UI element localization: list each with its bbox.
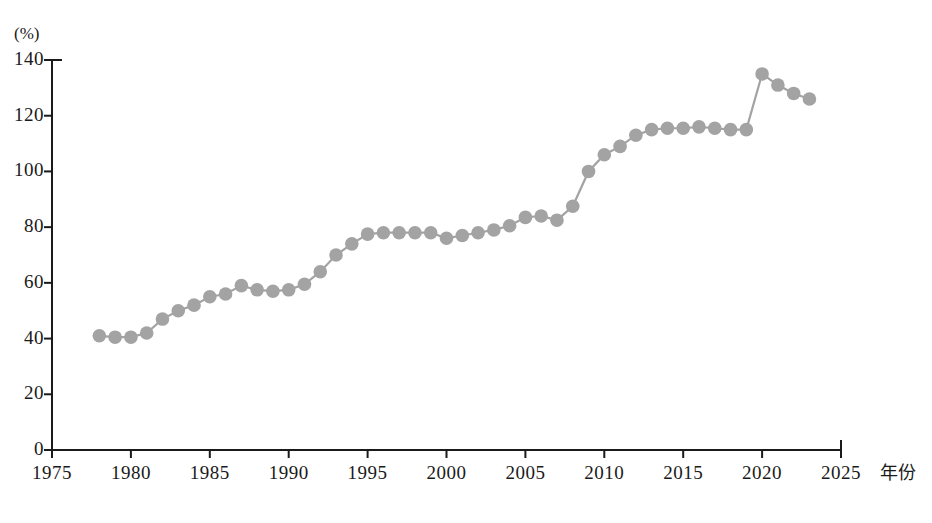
data-point-marker (219, 287, 233, 301)
data-point-marker (329, 248, 343, 262)
x-tick-label: 1990 (259, 462, 319, 484)
y-tick-label: 20 (0, 382, 44, 404)
data-point-marker (692, 120, 706, 134)
data-point-marker (392, 226, 406, 240)
data-point-marker (282, 283, 296, 297)
data-point-marker (424, 226, 438, 240)
y-tick-label: 40 (0, 327, 44, 349)
y-tick-label: 100 (0, 159, 44, 181)
x-tick-label: 2005 (495, 462, 555, 484)
data-point-marker (598, 148, 612, 162)
data-point-marker (171, 304, 185, 318)
data-point-marker (313, 265, 327, 279)
data-point-marker (566, 199, 580, 213)
x-tick-label: 1975 (22, 462, 82, 484)
x-tick-label: 2025 (811, 462, 871, 484)
plot-area (0, 0, 932, 523)
x-tick-label: 1985 (180, 462, 240, 484)
y-tick-label: 0 (0, 438, 44, 460)
data-point-marker (755, 67, 769, 81)
data-point-marker (298, 277, 312, 291)
x-tick-label: 2000 (417, 462, 477, 484)
x-tick-label: 2015 (653, 462, 713, 484)
data-point-marker (724, 123, 738, 137)
data-point-marker (235, 279, 249, 293)
chart-figure: (%) 年份 020406080100120140 19751980198519… (0, 0, 932, 523)
data-point-marker (613, 140, 627, 154)
x-tick-marks (52, 450, 841, 458)
data-point-marker (487, 223, 501, 237)
data-point-marker (708, 121, 722, 135)
data-point-marker (361, 227, 375, 241)
data-point-marker (93, 329, 107, 343)
data-point-marker (534, 209, 548, 223)
y-tick-label: 80 (0, 215, 44, 237)
data-point-marker (377, 226, 391, 240)
data-point-marker (266, 284, 280, 298)
y-tick-label: 120 (0, 104, 44, 126)
data-point-marker (345, 237, 359, 251)
data-point-marker (803, 92, 817, 106)
x-tick-label: 2010 (574, 462, 634, 484)
y-tick-marks (44, 60, 52, 450)
data-point-marker (582, 165, 596, 179)
data-point-marker (250, 283, 264, 297)
data-point-marker (550, 213, 564, 227)
data-point-marker (471, 226, 485, 240)
data-point-marker (408, 226, 422, 240)
data-point-marker (203, 290, 217, 304)
data-point-marker (440, 231, 454, 245)
data-point-marker (676, 121, 690, 135)
data-point-marker (645, 123, 659, 137)
axes-group (52, 60, 841, 450)
data-point-marker (503, 219, 517, 233)
x-tick-label: 1995 (338, 462, 398, 484)
data-point-marker (787, 87, 801, 101)
data-point-marker (187, 298, 201, 312)
x-tick-label: 1980 (101, 462, 161, 484)
y-tick-label: 140 (0, 48, 44, 70)
x-tick-label: 2020 (732, 462, 792, 484)
data-point-marker (455, 229, 469, 243)
y-tick-label: 60 (0, 271, 44, 293)
data-point-marker (124, 330, 138, 344)
data-point-marker (108, 330, 122, 344)
data-point-marker (156, 312, 170, 326)
data-point-marker (140, 326, 154, 340)
data-point-marker (661, 121, 675, 135)
data-point-marker (629, 128, 643, 142)
data-point-marker (771, 78, 785, 92)
data-point-marker (740, 123, 754, 137)
data-point-marker (519, 211, 533, 225)
